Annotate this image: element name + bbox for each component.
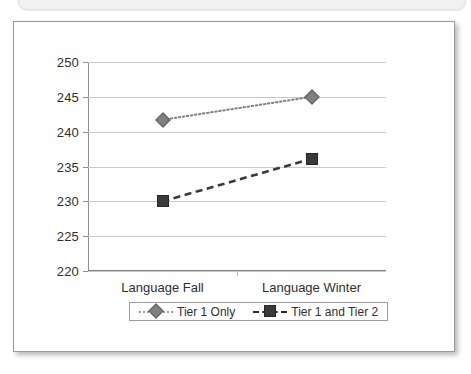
series-line-tier-1-and-tier-2 [163,159,312,201]
scanned-page-artifact [18,0,466,10]
y-axis-tick [83,271,88,272]
y-axis-tick-label: 225 [57,229,79,244]
diamond-marker-icon [148,303,164,319]
data-point-square-0 [157,195,169,207]
legend-key-dashed-square-icon [253,306,287,317]
data-point-square-1 [306,153,318,165]
y-axis-tick-label: 235 [57,159,79,174]
legend-label-tier-1-only: Tier 1 Only [177,305,235,319]
square-marker-icon [264,305,276,317]
y-axis-tick-label: 220 [57,264,79,279]
series-lines [88,62,386,271]
series-line-tier-1-only [163,97,312,120]
legend-entry-tier-1-only[interactable]: Tier 1 Only [139,305,235,319]
y-axis-tick-label: 245 [57,89,79,104]
y-axis-tick-label: 230 [57,194,79,209]
y-axis-tick-label: 240 [57,124,79,139]
y-axis-tick-label: 250 [57,55,79,70]
gridline [88,271,386,272]
plot-area: 220225230235240245250 Language FallLangu… [88,62,386,271]
legend-key-dotted-diamond-icon [139,306,173,317]
chart-frame: 220225230235240245250 Language FallLangu… [13,21,455,352]
x-axis-tick-label: Language Fall [121,280,203,295]
x-axis-tick-label: Language Winter [262,280,361,295]
legend-entry-tier-1-and-tier-2[interactable]: Tier 1 and Tier 2 [253,305,378,319]
chart-legend[interactable]: Tier 1 Only Tier 1 and Tier 2 [129,302,388,321]
chart-canvas: 220225230235240245250 Language FallLangu… [14,22,456,353]
legend-label-tier-1-and-tier-2: Tier 1 and Tier 2 [291,305,378,319]
